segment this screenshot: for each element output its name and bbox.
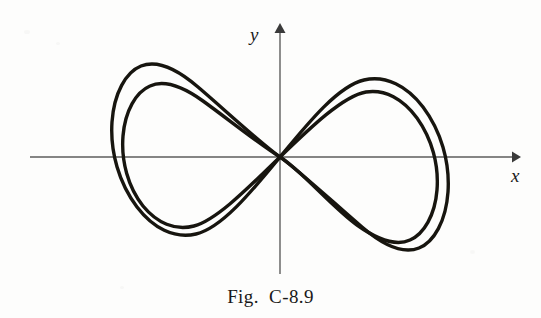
y-axis-label: y xyxy=(248,24,259,45)
figure-caption: Fig. C-8.9 xyxy=(0,286,541,308)
lemniscate-figure: y x xyxy=(0,0,541,318)
x-axis-arrowhead xyxy=(512,152,521,163)
y-axis-arrowhead xyxy=(275,23,286,33)
x-axis-label: x xyxy=(510,165,520,186)
figure-page: y x Fig. C-8.9 xyxy=(0,0,541,318)
